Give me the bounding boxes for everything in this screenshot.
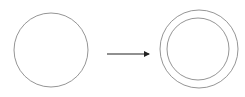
target-inner-circle: [167, 18, 229, 80]
target-outer-circle: [160, 10, 238, 88]
diagram-canvas: [0, 0, 245, 97]
source-circle: [14, 13, 88, 87]
